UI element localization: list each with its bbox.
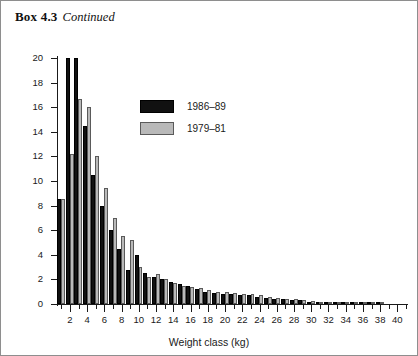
x-tick bbox=[70, 305, 71, 312]
bar-series-1-class-20 bbox=[225, 292, 229, 304]
x-tick-label: 40 bbox=[386, 314, 408, 325]
legend-item: 1979–81 bbox=[140, 117, 226, 139]
x-tick bbox=[234, 305, 235, 309]
x-tick bbox=[328, 305, 329, 312]
x-tick bbox=[139, 305, 140, 312]
y-tick-label: 4 bbox=[17, 249, 43, 260]
bar-series-1-class-9 bbox=[130, 240, 134, 304]
bar-series-1-class-1 bbox=[61, 199, 65, 304]
x-tick bbox=[346, 305, 347, 312]
bar-series-1-class-26 bbox=[276, 298, 280, 304]
x-tick bbox=[311, 305, 312, 312]
bar-series-1-class-3 bbox=[78, 99, 82, 304]
x-tick bbox=[337, 305, 338, 309]
x-tick bbox=[303, 305, 304, 309]
x-axis-title: Weight class (kg) bbox=[1, 336, 417, 348]
bar-series-1-class-19 bbox=[216, 292, 220, 304]
bar-series-1-class-36 bbox=[363, 302, 367, 304]
y-tick-label: 20 bbox=[17, 52, 43, 63]
x-tick bbox=[199, 305, 200, 309]
bar-series-1-class-12 bbox=[156, 274, 160, 304]
x-tick bbox=[122, 305, 123, 312]
x-tick bbox=[113, 305, 114, 309]
bar-series-1-class-17 bbox=[199, 288, 203, 304]
y-tick-label: 12 bbox=[17, 150, 43, 161]
x-tick bbox=[242, 305, 243, 312]
x-tick bbox=[182, 305, 183, 309]
x-tick bbox=[363, 305, 364, 312]
bar-series-1-class-10 bbox=[139, 267, 143, 304]
y-tick-label: 16 bbox=[17, 101, 43, 112]
y-tick-label: 8 bbox=[17, 200, 43, 211]
x-tick bbox=[260, 305, 261, 312]
plot-area bbox=[57, 58, 406, 304]
bar-series-1-class-6 bbox=[104, 188, 108, 304]
x-tick bbox=[372, 305, 373, 309]
bar-series-1-class-31 bbox=[319, 302, 323, 304]
x-tick bbox=[216, 305, 217, 309]
chart-legend: 1986–89 1979–81 bbox=[140, 95, 226, 139]
bar-series-1-class-38 bbox=[380, 302, 384, 304]
figure-box-4-3: Box 4.3Continued Frequency Weight class … bbox=[0, 0, 418, 356]
bar-series-1-class-7 bbox=[113, 218, 117, 304]
bar-series-1-class-5 bbox=[95, 156, 99, 304]
x-tick bbox=[294, 305, 295, 312]
x-tick bbox=[354, 305, 355, 309]
x-tick bbox=[208, 305, 209, 312]
x-tick bbox=[147, 305, 148, 309]
bar-series-1-class-33 bbox=[337, 302, 341, 304]
x-tick bbox=[173, 305, 174, 312]
bar-series-1-class-35 bbox=[354, 302, 358, 304]
bar-series-1-class-32 bbox=[328, 302, 332, 304]
bar-series-1-class-28 bbox=[294, 299, 298, 304]
x-tick bbox=[165, 305, 166, 309]
x-tick bbox=[87, 305, 88, 312]
y-tick-label: 18 bbox=[17, 77, 43, 88]
x-tick bbox=[277, 305, 278, 312]
bar-series-1-class-30 bbox=[311, 301, 315, 304]
bar-series-1-class-4 bbox=[87, 107, 91, 304]
x-tick bbox=[285, 305, 286, 309]
bar-series-1-class-16 bbox=[190, 287, 194, 304]
bar-series-1-class-34 bbox=[345, 302, 349, 304]
bar-series-1-class-18 bbox=[207, 290, 211, 304]
bar-series-1-class-27 bbox=[285, 299, 289, 304]
x-tick bbox=[130, 305, 131, 309]
y-tick-label: 2 bbox=[17, 273, 43, 284]
bar-series-1-class-13 bbox=[164, 279, 168, 304]
x-tick bbox=[397, 305, 398, 312]
x-tick bbox=[191, 305, 192, 312]
y-tick-label: 6 bbox=[17, 224, 43, 235]
x-tick bbox=[389, 305, 390, 309]
bar-series-1-class-11 bbox=[147, 277, 151, 304]
bar-series-1-class-14 bbox=[173, 283, 177, 304]
x-tick bbox=[96, 305, 97, 309]
y-tick-label: 14 bbox=[17, 126, 43, 137]
x-tick bbox=[268, 305, 269, 309]
x-tick bbox=[61, 305, 62, 309]
bar-series-1-class-21 bbox=[233, 293, 237, 304]
y-tick-label: 10 bbox=[17, 175, 43, 186]
x-tick bbox=[320, 305, 321, 309]
figure-caption: Box 4.3Continued bbox=[15, 9, 115, 25]
legend-swatch-series-0 bbox=[140, 100, 174, 113]
y-tick-label: 0 bbox=[17, 298, 43, 309]
bar-series-1-class-22 bbox=[242, 294, 246, 304]
x-axis-line bbox=[57, 304, 408, 305]
bar-series-1-class-23 bbox=[251, 294, 255, 304]
x-tick bbox=[225, 305, 226, 312]
bar-series-1-class-15 bbox=[182, 286, 186, 304]
legend-item: 1986–89 bbox=[140, 95, 226, 117]
bar-series-1-class-24 bbox=[259, 295, 263, 304]
caption-box-label: Box 4.3 bbox=[15, 9, 58, 24]
x-tick bbox=[380, 305, 381, 312]
bar-series-1-class-2 bbox=[70, 154, 74, 304]
x-tick bbox=[251, 305, 252, 309]
x-tick bbox=[79, 305, 80, 309]
legend-label-series-0: 1986–89 bbox=[187, 101, 226, 112]
caption-continued-label: Continued bbox=[63, 10, 115, 24]
bar-series-1-class-8 bbox=[121, 236, 125, 304]
x-tick bbox=[406, 305, 407, 309]
bar-series-1-class-29 bbox=[302, 300, 306, 304]
x-tick bbox=[104, 305, 105, 312]
